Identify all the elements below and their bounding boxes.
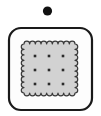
- cracker-body: [21, 41, 77, 96]
- cracker-hole: [62, 83, 65, 86]
- cracker-hole: [48, 69, 51, 72]
- cracker-hole: [62, 69, 65, 72]
- dot-marker: [43, 6, 52, 15]
- icon-stage: Cracker in rounded square frame A small …: [0, 0, 101, 116]
- cracker-illustration: [0, 0, 101, 116]
- cracker-hole: [34, 69, 37, 72]
- cracker-hole: [48, 55, 51, 58]
- cracker-hole: [62, 55, 65, 58]
- cracker-hole: [34, 55, 37, 58]
- cracker-hole: [34, 83, 37, 86]
- cracker-hole: [48, 83, 51, 86]
